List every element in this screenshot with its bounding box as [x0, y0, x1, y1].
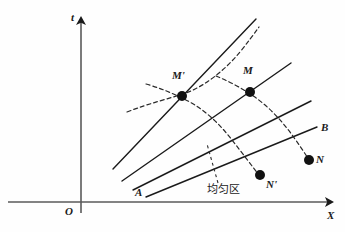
- dashed-curve-3: [216, 76, 309, 160]
- origin-label: O: [65, 206, 73, 217]
- t-axis-label: t: [71, 12, 74, 23]
- spacetime-diagram-figure: t X O M'MN'NAB 均匀区: [0, 0, 345, 232]
- characteristic-2: [122, 63, 291, 181]
- label-B: B: [321, 122, 328, 133]
- uniform-region-label: 均匀区: [207, 184, 240, 195]
- dashed-curves-group: [127, 27, 309, 175]
- point-N-prime: [255, 170, 265, 180]
- point-N-prime-label: N': [266, 179, 277, 190]
- point-N-label: N: [316, 154, 324, 165]
- point-M: [245, 87, 255, 97]
- point-M-label: M: [243, 65, 253, 76]
- label-A: A: [135, 187, 142, 198]
- diagram-canvas: [0, 0, 345, 232]
- x-axis-label: X: [327, 210, 334, 221]
- point-M-prime: [177, 91, 187, 101]
- solid-lines-group: [113, 19, 317, 197]
- point-M-prime-label: M': [172, 70, 185, 81]
- point-N: [304, 155, 314, 165]
- characteristic-3: [133, 101, 311, 190]
- axis-group: [8, 20, 330, 213]
